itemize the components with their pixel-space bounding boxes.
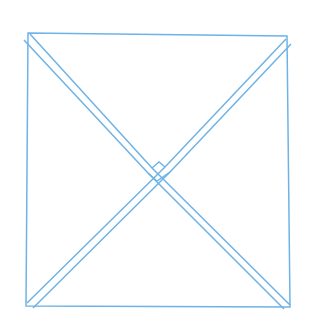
drawing-canvas <box>0 0 315 327</box>
geometric-figure <box>0 0 315 327</box>
